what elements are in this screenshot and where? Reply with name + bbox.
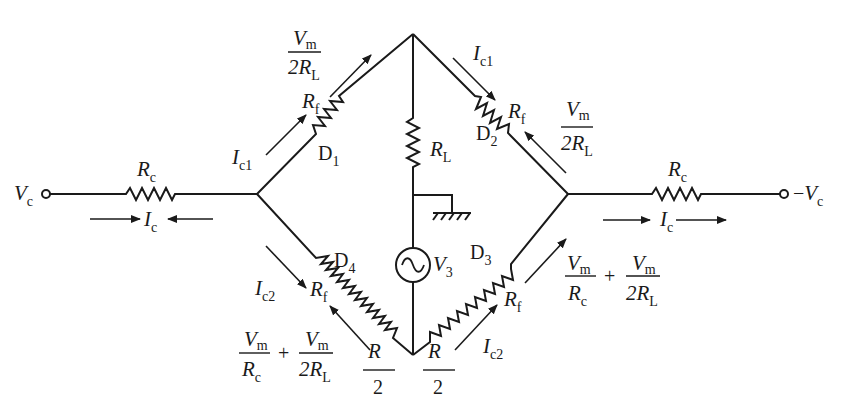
source-label: V3 — [433, 252, 453, 280]
d4-reverse-arrow-icon — [330, 306, 370, 350]
circuit-diagram: Vc Rc Ic −Vc Rc Ic Ic1 Rf D1 Vm 2RL Ic1 … — [0, 0, 845, 409]
d1-reverse-arrow-icon — [330, 55, 371, 97]
left-rc-resistor-icon — [50, 188, 257, 200]
svg-text:2RL: 2RL — [626, 281, 658, 309]
d2-reverse-fraction: Vm 2RL — [561, 97, 593, 159]
svg-text:+: + — [278, 342, 289, 364]
d1-reverse-fraction: Vm 2RL — [288, 26, 321, 83]
svg-text:Vm: Vm — [567, 251, 591, 277]
left-terminal-label: Vc — [14, 181, 33, 209]
d3-label: D3 — [470, 241, 491, 268]
right-terminal-icon — [780, 190, 788, 198]
diode-d2-arm: Ic1 Rf D2 Vm 2RL — [413, 34, 593, 194]
svg-text:2RL: 2RL — [561, 131, 593, 159]
d1-label: D1 — [318, 142, 339, 169]
d1-rf-label: Rf — [301, 89, 320, 117]
d1-rf-resistor-icon — [257, 34, 413, 194]
left-terminal-icon — [42, 190, 50, 198]
d3-reverse-arrow-icon — [525, 239, 566, 283]
d3-reverse-expression: Vm Rc + Vm 2RL — [565, 251, 660, 309]
right-terminal-label: −Vc — [793, 181, 823, 209]
d4-reverse-expression: Vm Rc + Vm 2RL — [239, 327, 333, 385]
svg-text:R: R — [427, 339, 441, 363]
d4-forward-arrow-icon — [266, 246, 306, 288]
svg-text:2: 2 — [433, 376, 443, 398]
d3-rf-label: Rf — [503, 287, 522, 315]
d4-rf-and-half-r-resistor-icon — [257, 194, 413, 355]
ac-source-icon — [396, 248, 430, 282]
d4-rf-label: Rf — [309, 277, 328, 305]
svg-text:2RL: 2RL — [299, 357, 331, 385]
diode-d3-arm: Ic2 Rf D3 Vm Rc + Vm 2RL R 2 — [413, 194, 660, 398]
right-rc-label: Rc — [667, 157, 687, 185]
d2-current-label: Ic1 — [472, 41, 493, 69]
svg-text:Vm: Vm — [244, 327, 268, 353]
right-rc-resistor-icon — [568, 188, 780, 200]
svg-text:R: R — [367, 339, 381, 363]
svg-text:Rc: Rc — [567, 281, 587, 309]
left-rc-label: Rc — [136, 157, 156, 185]
left-ic-label: Ic — [143, 207, 157, 235]
diode-d1-arm: Ic1 Rf D1 Vm 2RL — [231, 26, 413, 194]
svg-text:Vm: Vm — [305, 327, 329, 353]
d4-label: D4 — [334, 249, 355, 276]
d2-label: D2 — [476, 122, 497, 149]
d3-current-label: Ic2 — [482, 334, 503, 362]
d4-current-label: Ic2 — [254, 276, 275, 304]
d2-reverse-arrow-icon — [525, 132, 566, 173]
svg-text:Vm: Vm — [632, 251, 656, 277]
svg-text:Rc: Rc — [241, 357, 261, 385]
svg-text:Vm: Vm — [293, 26, 317, 52]
svg-text:Vm: Vm — [566, 97, 590, 123]
svg-text:2: 2 — [373, 376, 383, 398]
load-resistor-icon — [407, 34, 419, 248]
right-ic-label: Ic — [659, 207, 673, 235]
right-output-branch: −Vc Rc Ic — [568, 157, 823, 235]
left-half-r-fraction: R 2 — [363, 339, 395, 398]
diode-d4-arm: Ic2 Rf D4 Vm Rc + Vm 2RL R 2 — [239, 194, 413, 398]
load-resistor-label: RL — [429, 137, 451, 165]
svg-text:2RL: 2RL — [288, 55, 320, 83]
d1-current-label: Ic1 — [231, 145, 252, 173]
right-half-r-fraction: R 2 — [423, 339, 455, 398]
left-input-branch: Vc Rc Ic — [14, 157, 257, 235]
ground-icon — [413, 195, 471, 220]
svg-text:+: + — [604, 265, 615, 287]
d2-rf-label: Rf — [507, 99, 526, 127]
